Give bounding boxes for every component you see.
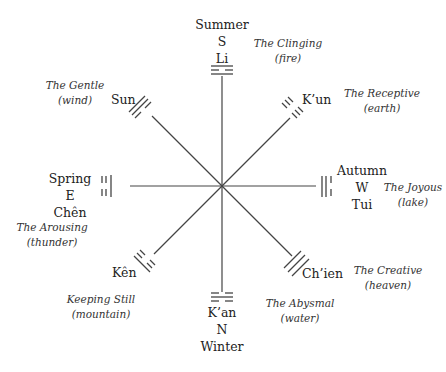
trigram-name-kan: K’an	[192, 304, 252, 321]
label-kan-group: K’an N Winter	[192, 304, 252, 355]
season-spring: Spring	[40, 170, 100, 187]
season-autumn: Autumn	[332, 162, 392, 179]
label-chen-group: Spring E Chên	[40, 170, 100, 221]
trigram-name-kun: K’un	[302, 92, 331, 107]
meaning-sun: The Gentle (wind)	[40, 78, 110, 108]
trigram-ken-icon	[134, 250, 155, 272]
season-summer: Summer	[192, 16, 252, 33]
direction-s: S	[192, 33, 252, 50]
direction-e: E	[40, 187, 100, 204]
trigram-name-chen: Chên	[40, 204, 100, 221]
direction-n: N	[192, 321, 252, 338]
meaning-kan: The Abysmal (water)	[262, 296, 338, 326]
season-winter: Winter	[192, 338, 252, 355]
trigram-chen-icon	[102, 175, 111, 197]
trigram-name-sun: Sun	[111, 92, 136, 107]
trigram-name-ken: Kên	[112, 265, 136, 280]
trigram-name-chien: Ch’ien	[302, 266, 343, 281]
label-li-group: Summer S Li	[192, 16, 252, 67]
meaning-tui: The Joyous (lake)	[380, 180, 446, 210]
meaning-ken: Keeping Still (mountain)	[58, 292, 144, 322]
trigram-tui-icon	[322, 176, 331, 197]
meaning-chen: The Arousing (thunder)	[14, 220, 90, 250]
meaning-chien: The Creative (heaven)	[348, 263, 428, 293]
trigram-li-icon	[211, 66, 233, 74]
trigram-kun-icon	[282, 97, 303, 118]
trigram-kan-icon	[211, 293, 233, 301]
meaning-kun: The Receptive (earth)	[344, 86, 420, 116]
trigram-name-li: Li	[192, 50, 252, 67]
meaning-li: The Clinging (fire)	[248, 36, 328, 66]
